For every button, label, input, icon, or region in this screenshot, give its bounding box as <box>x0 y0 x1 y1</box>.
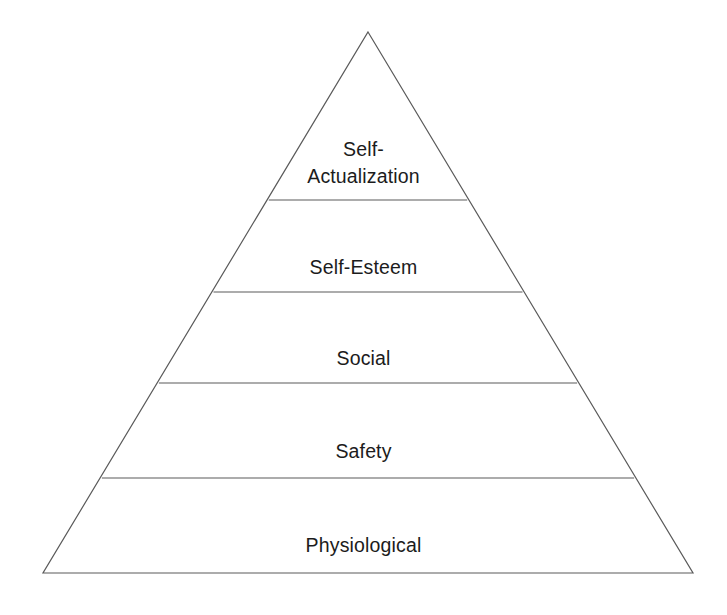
hierarchy-of-needs-pyramid: Self- Actualization Self-Esteem Social S… <box>0 0 727 615</box>
pyramid-outline-graphic <box>0 0 727 615</box>
pyramid-outline <box>43 32 693 573</box>
